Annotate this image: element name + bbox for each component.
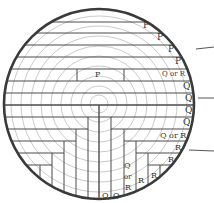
cut-type-label: Q [185,105,192,115]
cut-type-label: R [125,183,132,192]
cut-type-label: P [143,20,149,30]
cut-type-label: P [168,44,174,54]
cut-type-label: P [95,70,101,79]
cut-type-label: R [168,155,175,164]
cut-type-label: Q or R [160,131,187,140]
cut-type-label: R [175,143,182,152]
cut-type-label: P [175,56,181,66]
cut-type-label: Q or R [162,70,186,78]
cut-type-label: P [157,32,163,42]
cut-type-label: Q [113,191,120,200]
cut-type-label: Q [102,191,109,200]
cut-type-label: Q [183,81,190,91]
leader-line [189,150,214,151]
cut-type-label: Q [124,161,131,170]
cut-type-label: or [124,173,132,181]
leader-line [196,47,214,49]
cut-type-label: Q [185,93,192,103]
cut-type-label: R [138,176,145,185]
cut-type-label: Q [183,117,190,127]
board-cut-lines [0,22,214,203]
cut-type-label: R [151,171,158,180]
log-sawing-diagram: PPPPQ or RPQQQQQ or RRRQorRRRQQ [0,0,214,203]
